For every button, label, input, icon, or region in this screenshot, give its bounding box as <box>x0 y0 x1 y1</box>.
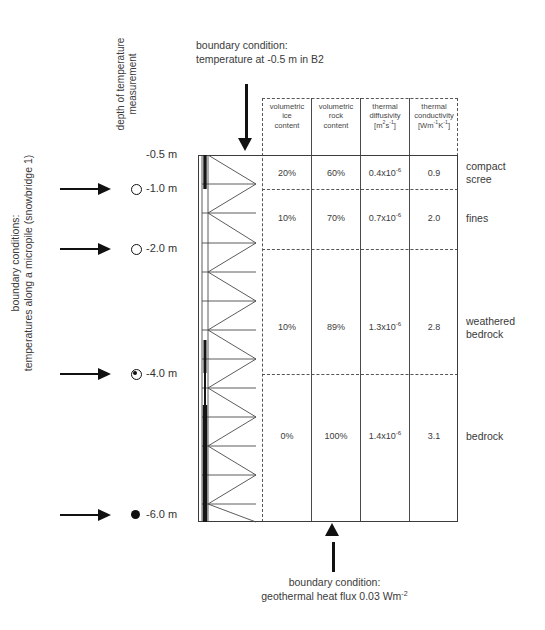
layer-line1: weathered <box>466 315 515 328</box>
table-header-ice-content: volumetric ice content <box>263 102 311 130</box>
layer-name-compact-scree: compact scree <box>466 160 506 185</box>
boundary-arrow-2m <box>60 243 116 255</box>
boundary-arrow-6m <box>60 509 116 521</box>
header-line2: ice <box>263 111 311 120</box>
boundary-arrow-1m <box>60 183 116 195</box>
depth-marker-2m <box>131 244 142 255</box>
top-boundary-line1: boundary condition: <box>196 38 324 52</box>
depth-label-6m: -6.0 m <box>146 508 177 520</box>
arrow-head <box>98 183 111 195</box>
bottom-boundary-arrow-head <box>325 523 339 536</box>
depth-label-0-5m: -0.5 m <box>146 148 177 160</box>
header-units: [m2s-1] <box>361 121 409 130</box>
left-boundary-line1: boundary conditions: <box>9 103 22 423</box>
boundary-arrow-4m <box>60 368 116 380</box>
arrow-head <box>98 243 111 255</box>
layer-name-fines: fines <box>466 212 488 225</box>
header-line1: thermal <box>410 102 458 111</box>
depth-axis-label: depth of temperature measurement <box>115 9 139 159</box>
table-header-thermal-diffusivity: thermal diffusivity [m2s-1] <box>361 102 409 130</box>
bottom-boundary-arrow-shaft <box>332 542 335 572</box>
table-header-rock-content: volumetric rock content <box>312 102 360 130</box>
arrow-shaft <box>60 188 100 190</box>
left-boundary-caption: boundary conditions: temperatures along … <box>9 103 35 423</box>
layer-line2: scree <box>466 173 506 186</box>
left-boundary-line2: temperatures along a micropile (snowbrid… <box>22 103 35 423</box>
depth-marker-1m <box>131 184 142 195</box>
top-boundary-annotation: boundary condition: temperature at -0.5 … <box>196 38 324 66</box>
top-boundary-arrow-shaft <box>245 84 248 142</box>
header-line3: content <box>263 121 311 130</box>
depth-marker-4m <box>131 369 142 380</box>
top-boundary-arrow-head <box>238 138 252 151</box>
header-line2: rock <box>312 111 360 120</box>
layer-line1: compact <box>466 160 506 173</box>
depth-marker-6m <box>131 510 140 519</box>
header-line1: thermal <box>361 102 409 111</box>
arrow-shaft <box>60 248 100 250</box>
table-header-thermal-conductivity: thermal conductivity [Wm-1K-1] <box>410 102 458 130</box>
header-units: [Wm-1K-1] <box>410 121 458 130</box>
bottom-boundary-line2: geothermal heat flux 0.03 Wm-2 <box>172 589 497 603</box>
arrow-head <box>98 509 111 521</box>
arrow-shaft <box>60 373 100 375</box>
bottom-boundary-line1: boundary condition: <box>172 575 497 589</box>
header-line1: volumetric <box>263 102 311 111</box>
layer-name-bedrock: bedrock <box>466 430 503 443</box>
depth-label-1m: -1.0 m <box>146 182 177 194</box>
layer-line2: bedrock <box>466 328 515 341</box>
header-line3: content <box>312 121 360 130</box>
finite-element-mesh <box>198 155 460 524</box>
header-line1: volumetric <box>312 102 360 111</box>
arrow-head <box>98 368 111 380</box>
depth-label-2m: -2.0 m <box>146 242 177 254</box>
layer-name-weathered-bedrock: weathered bedrock <box>466 315 515 340</box>
arrow-shaft <box>60 514 100 516</box>
depth-label-4m: -4.0 m <box>146 367 177 379</box>
top-boundary-line2: temperature at -0.5 m in B2 <box>196 52 324 66</box>
bottom-boundary-annotation: boundary condition: geothermal heat flux… <box>172 575 497 603</box>
